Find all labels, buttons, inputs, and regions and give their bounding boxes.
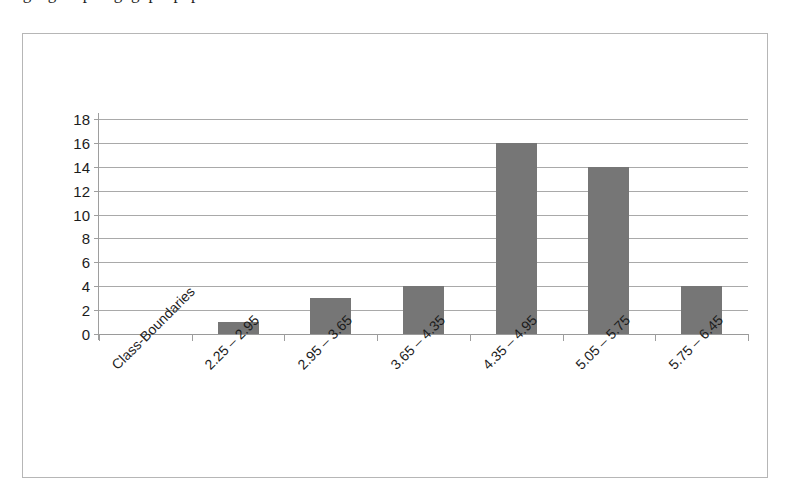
gridline-16 [99,143,748,144]
y-tick-label-0: 0 [82,327,90,342]
y-tick-label-16: 16 [73,135,90,150]
gridline-0 [99,334,748,335]
y-axis-line [98,113,99,340]
gridline-10 [99,215,748,216]
bar-3-65-4-35 [403,286,444,334]
bar-2-25-2-95 [218,322,259,334]
bar-5-75-6-45 [681,286,722,334]
y-tick-6 [94,262,99,263]
gridline-12 [99,191,748,192]
y-tick-label-8: 8 [82,231,90,246]
gridline-18 [99,119,748,120]
x-tick-6 [655,334,656,341]
bar-4-35-4-95 [496,143,537,334]
y-tick-label-18: 18 [73,112,90,127]
y-tick-label-4: 4 [82,279,90,294]
y-tick-8 [94,238,99,239]
bar-5-05-5-75 [588,167,629,334]
x-tick-5 [563,334,564,341]
x-tick-4 [470,334,471,341]
x-tick-1 [192,334,193,341]
y-tick-14 [94,167,99,168]
gridline-8 [99,238,748,239]
clipped-caption-above-figure: ogengbhuputngnghpenpup [0,0,789,4]
y-tick-label-6: 6 [82,255,90,270]
histogram-figure-frame: 024681012141618 Class-Boundaries2.25 – 2… [22,33,768,478]
gridline-6 [99,262,748,263]
y-tick-label-2: 2 [82,303,90,318]
y-tick-label-12: 12 [73,183,90,198]
x-tick-2 [284,334,285,341]
gridline-14 [99,167,748,168]
y-tick-4 [94,286,99,287]
y-tick-18 [94,119,99,120]
x-tick-7 [748,334,749,341]
y-tick-2 [94,310,99,311]
plot-area: 024681012141618 [99,119,748,334]
y-tick-16 [94,143,99,144]
y-tick-label-10: 10 [73,207,90,222]
x-tick-0 [99,334,100,341]
x-tick-3 [377,334,378,341]
y-tick-12 [94,191,99,192]
bar-2-95-3-65 [310,298,351,334]
y-tick-label-14: 14 [73,159,90,174]
y-tick-10 [94,215,99,216]
